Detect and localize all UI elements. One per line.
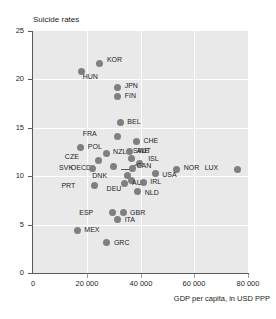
data-point-label: BEL	[127, 118, 140, 126]
x-axis-tick	[87, 274, 88, 278]
data-point-label: CZE	[65, 153, 79, 161]
x-axis-tick-label: 80 000	[228, 280, 268, 288]
y-axis-line	[32, 31, 33, 274]
y-axis-tick-label: 5	[20, 221, 24, 229]
data-point[interactable]	[121, 180, 128, 187]
data-point[interactable]	[74, 227, 81, 234]
chart-title: Suicide rates	[33, 15, 79, 25]
data-point[interactable]	[91, 182, 98, 189]
data-point-label: ISL	[148, 155, 159, 163]
data-point-label: KOR	[107, 56, 122, 64]
data-point-label: FRA	[83, 130, 97, 138]
x-axis-tick-label: 20 000	[67, 280, 107, 288]
data-point-label: USA	[162, 171, 176, 179]
data-point[interactable]	[140, 179, 147, 186]
data-point-label: FIN	[125, 92, 136, 100]
x-axis-tick	[248, 274, 249, 278]
y-axis-tick-label: 15	[16, 124, 24, 132]
data-point[interactable]	[110, 163, 117, 170]
data-point[interactable]	[114, 84, 121, 91]
data-point-label: MEX	[84, 226, 99, 234]
data-point-label: POL	[88, 143, 102, 151]
x-axis-tick-label: 0	[13, 280, 53, 288]
y-axis-tick	[28, 31, 32, 32]
data-point-label: NZL	[113, 148, 126, 156]
data-point-label: NLD	[145, 189, 159, 197]
y-axis-tick	[28, 128, 32, 129]
data-point-label: ESP	[79, 209, 93, 217]
data-point[interactable]	[129, 165, 136, 172]
data-point-label: SWE	[133, 147, 149, 155]
gridline-vertical	[248, 31, 249, 273]
data-point[interactable]	[114, 93, 121, 100]
data-point[interactable]	[114, 216, 121, 223]
plot-area: KORHUNJPNFINBELFRACHEPOLAUTNZLCZESWEISLO…	[33, 31, 248, 273]
data-point[interactable]	[103, 150, 110, 157]
data-point[interactable]	[114, 133, 121, 140]
data-point[interactable]	[103, 239, 110, 246]
gridline-vertical	[194, 31, 195, 273]
data-point[interactable]	[234, 166, 241, 173]
data-point[interactable]	[96, 60, 103, 67]
gridline-vertical	[87, 31, 88, 273]
y-axis-tick-label: 20	[16, 75, 24, 83]
data-point[interactable]	[128, 155, 135, 162]
y-axis-tick	[28, 273, 32, 274]
data-point-label: ITA	[125, 216, 135, 224]
data-point-label: LUX	[205, 164, 219, 172]
data-point[interactable]	[77, 144, 84, 151]
x-axis-tick-label: 60 000	[174, 280, 214, 288]
data-point-label: HUN	[83, 73, 98, 81]
data-point-label: GRC	[114, 239, 130, 247]
y-axis-tick	[28, 225, 32, 226]
data-point[interactable]	[109, 209, 116, 216]
data-point-label: CHE	[143, 137, 158, 145]
data-point[interactable]	[89, 165, 96, 172]
data-point[interactable]	[95, 157, 102, 164]
scatter-chart-figure: Suicide rates KORHUNJPNFINBELFRACHEPOLAU…	[0, 0, 276, 319]
data-point-label: IRL	[150, 178, 161, 186]
gridline-horizontal	[33, 79, 248, 80]
data-point[interactable]	[152, 170, 159, 177]
data-point-label: SVK	[59, 164, 73, 172]
x-axis-tick	[194, 274, 195, 278]
data-point-label: DEU	[107, 185, 122, 193]
data-point-label: DNK	[92, 172, 107, 180]
gridline-horizontal	[33, 128, 248, 129]
y-axis-tick-label: 25	[16, 27, 24, 35]
data-point-label: PRT	[61, 182, 75, 190]
data-point[interactable]	[117, 119, 124, 126]
y-axis-tick	[28, 79, 32, 80]
x-axis-tick	[141, 274, 142, 278]
data-point-label: JPN	[125, 82, 138, 90]
y-axis-tick-label: 10	[16, 172, 24, 180]
gridline-horizontal	[33, 225, 248, 226]
gridline-horizontal	[33, 176, 248, 177]
data-point-label: NOR	[184, 164, 200, 172]
data-point-label: CAN	[136, 162, 151, 170]
x-axis-tick-label: 40 000	[121, 280, 161, 288]
x-axis-title: GDP per capita, in USD PPP	[174, 294, 270, 303]
y-axis-tick	[28, 176, 32, 177]
y-axis-tick-label: 0	[20, 269, 24, 277]
data-point[interactable]	[133, 138, 140, 145]
